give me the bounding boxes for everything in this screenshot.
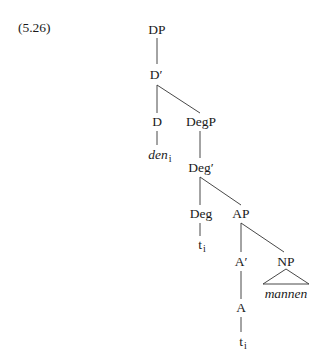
node-degp: DegP: [186, 114, 216, 130]
node-d: D: [152, 114, 162, 130]
node-a-bar: A′: [235, 254, 248, 270]
word-den: den: [148, 147, 168, 162]
node-a: A: [236, 300, 246, 316]
node-deg: Deg: [190, 206, 213, 222]
np-triangle: [263, 269, 309, 284]
index-i: i: [169, 153, 172, 164]
leaf-trace-a: ti: [239, 334, 247, 354]
node-np: NP: [277, 254, 294, 270]
node-dp: DP: [148, 22, 165, 38]
edge-degbar-ap: [200, 177, 241, 205]
leaf-trace-deg: ti: [198, 237, 206, 257]
tree-edges: [0, 0, 326, 357]
leaf-mannen: mannen: [265, 286, 308, 302]
trace-t: t: [239, 334, 243, 349]
index-i: i: [203, 243, 206, 254]
node-deg-bar: Deg′: [188, 160, 213, 176]
index-i: i: [244, 340, 247, 351]
node-ap: AP: [232, 206, 249, 222]
edge-dbar-degp: [157, 85, 200, 113]
node-d-bar: D′: [150, 67, 163, 83]
edge-ap-np: [241, 223, 284, 252]
trace-t: t: [198, 237, 202, 252]
leaf-den: deni: [148, 147, 171, 167]
